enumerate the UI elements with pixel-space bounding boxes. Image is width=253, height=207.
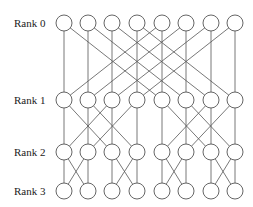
node-rank2-1 bbox=[80, 144, 96, 160]
node-rank1-1 bbox=[80, 92, 96, 108]
node-rank3-3 bbox=[129, 183, 145, 199]
node-rank3-5 bbox=[178, 183, 194, 199]
node-rank2-3 bbox=[129, 144, 145, 160]
node-rank3-4 bbox=[154, 183, 170, 199]
node-rank0-2 bbox=[104, 15, 120, 31]
node-rank2-0 bbox=[56, 144, 72, 160]
node-rank1-2 bbox=[104, 92, 120, 108]
node-rank0-3 bbox=[129, 15, 145, 31]
rank-1-label: Rank 1 bbox=[14, 94, 45, 106]
rank-0-label: Rank 0 bbox=[14, 17, 45, 29]
node-rank1-6 bbox=[203, 92, 219, 108]
node-rank2-5 bbox=[178, 144, 194, 160]
nodes bbox=[56, 15, 243, 199]
node-rank0-4 bbox=[154, 15, 170, 31]
node-rank0-0 bbox=[56, 15, 72, 31]
node-rank3-0 bbox=[56, 183, 72, 199]
node-rank3-1 bbox=[80, 183, 96, 199]
node-rank0-6 bbox=[203, 15, 219, 31]
node-rank1-5 bbox=[178, 92, 194, 108]
node-rank2-7 bbox=[227, 144, 243, 160]
node-rank1-7 bbox=[227, 92, 243, 108]
rank-2-label: Rank 2 bbox=[14, 146, 45, 158]
node-rank0-5 bbox=[178, 15, 194, 31]
node-rank0-7 bbox=[227, 15, 243, 31]
node-rank1-0 bbox=[56, 92, 72, 108]
node-rank2-6 bbox=[203, 144, 219, 160]
node-rank3-7 bbox=[227, 183, 243, 199]
node-rank3-2 bbox=[104, 183, 120, 199]
node-rank1-4 bbox=[154, 92, 170, 108]
node-rank0-1 bbox=[80, 15, 96, 31]
node-rank3-6 bbox=[203, 183, 219, 199]
node-rank1-3 bbox=[129, 92, 145, 108]
node-rank2-2 bbox=[104, 144, 120, 160]
rank-3-label: Rank 3 bbox=[14, 185, 45, 197]
node-rank2-4 bbox=[154, 144, 170, 160]
